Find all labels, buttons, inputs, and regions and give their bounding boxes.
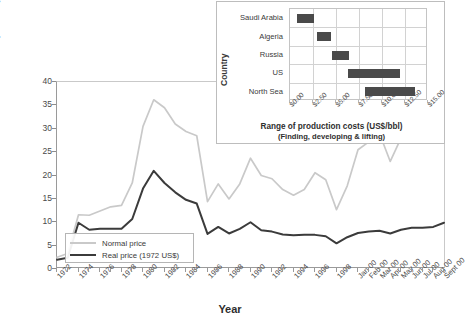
x-tick-mark xyxy=(174,268,175,272)
inset-gridline-vertical xyxy=(359,9,360,99)
inset-gridline-vertical xyxy=(405,9,406,99)
x-tick-mark xyxy=(67,268,68,272)
inset-category-label: US xyxy=(217,68,283,77)
y-tick-label: 15 xyxy=(0,193,52,203)
x-tick-mark xyxy=(88,268,89,272)
main-x-axis-label: Year xyxy=(0,303,460,315)
x-tick-mark xyxy=(282,268,283,272)
inset-bar xyxy=(317,32,332,41)
x-tick-mark xyxy=(217,268,218,272)
main-y-axis-ticks: 0510152025303540 xyxy=(0,0,56,323)
legend-swatch-real-price xyxy=(70,254,96,256)
legend-item-normal-price: Normal price xyxy=(70,237,189,249)
x-tick-mark xyxy=(346,268,347,272)
x-tick-mark xyxy=(260,268,261,272)
inset-category-label: North Sea xyxy=(217,86,283,95)
inset-bar xyxy=(297,14,314,23)
inset-gridline-horizontal xyxy=(290,83,426,84)
y-tick-label: 5 xyxy=(0,240,52,250)
inset-subtitle: (Finding, developing & lifting) xyxy=(217,132,446,141)
x-tick-mark xyxy=(303,268,304,272)
x-tick-mark xyxy=(153,268,154,272)
y-tick-label: 0 xyxy=(0,263,52,273)
legend-item-real-price: Real price (1972 US$) xyxy=(70,249,189,261)
inset-title: Range of production costs (US$/bbl) xyxy=(217,121,446,132)
x-tick-mark xyxy=(239,268,240,272)
inset-gridline-vertical xyxy=(382,9,383,99)
inset-gridline-horizontal xyxy=(290,46,426,47)
inset-gridline-horizontal xyxy=(290,64,426,65)
x-tick-mark xyxy=(196,268,197,272)
x-tick-mark xyxy=(110,268,111,272)
legend-label-real-price: Real price (1972 US$) xyxy=(102,251,179,260)
chart-legend: Normal price Real price (1972 US$) xyxy=(65,233,194,263)
inset-bar xyxy=(332,51,349,60)
y-tick-label: 30 xyxy=(0,123,52,133)
y-tick-label: 25 xyxy=(0,146,52,156)
y-tick-label: 40 xyxy=(0,76,52,86)
x-tick-mark xyxy=(325,268,326,272)
inset-category-label: Saudi Arabia xyxy=(217,13,283,22)
y-tick-label: 35 xyxy=(0,99,52,109)
y-tick-label: 10 xyxy=(0,216,52,226)
inset-category-label: Russia xyxy=(217,50,283,59)
inset-panel: Country Saudi ArabiaAlgeriaRussiaUSNorth… xyxy=(216,1,445,144)
x-tick-mark xyxy=(131,268,132,272)
inset-x-tick-label: $15.00 xyxy=(426,88,446,108)
y-tick-label: 20 xyxy=(0,170,52,180)
inset-category-label: Algeria xyxy=(217,31,283,40)
inset-bar xyxy=(348,69,400,78)
inset-plot-area xyxy=(289,8,427,100)
legend-swatch-normal-price xyxy=(70,242,96,244)
inset-gridline-horizontal xyxy=(290,27,426,28)
legend-label-normal-price: Normal price xyxy=(102,239,146,248)
